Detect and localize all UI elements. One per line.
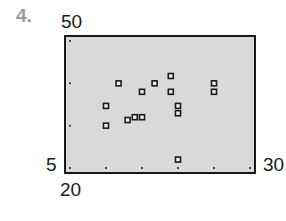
- data-point-marker: [140, 115, 145, 120]
- data-point-marker: [125, 118, 130, 123]
- data-point-marker: [168, 73, 173, 78]
- data-point-marker: [176, 157, 181, 162]
- x-tick-dot: [213, 167, 215, 169]
- data-point-marker: [212, 89, 217, 94]
- data-point-marker: [152, 81, 157, 86]
- y-min-label: 5: [46, 155, 57, 174]
- data-point-marker: [132, 115, 137, 120]
- data-point-marker: [176, 111, 181, 116]
- problem-number: 4.: [16, 5, 32, 27]
- scatter-plot: [66, 37, 254, 172]
- data-point-marker: [168, 89, 173, 94]
- x-min-label: 20: [60, 180, 81, 199]
- x-tick-dot: [177, 167, 179, 169]
- y-tick-dot: [69, 82, 71, 84]
- y-tick-dot: [69, 167, 71, 169]
- x-tick-dot: [141, 167, 143, 169]
- y-tick-dot: [69, 40, 71, 42]
- data-point-marker: [140, 89, 145, 94]
- x-tick-dot: [249, 167, 251, 169]
- data-point-marker: [212, 81, 217, 86]
- x-max-label: 30: [263, 155, 284, 174]
- data-point-marker: [104, 103, 109, 108]
- x-tick-dot: [105, 167, 107, 169]
- y-tick-dot: [69, 125, 71, 127]
- data-point-marker: [116, 81, 121, 86]
- y-max-label: 50: [61, 12, 82, 31]
- data-point-marker: [104, 123, 109, 128]
- calculator-plot-window: [64, 35, 256, 174]
- data-point-marker: [176, 103, 181, 108]
